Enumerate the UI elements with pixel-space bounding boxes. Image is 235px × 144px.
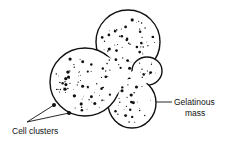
cell-cluster-dot (128, 43, 130, 45)
cell-cluster-dot (137, 102, 138, 103)
cell-cluster-dot (150, 100, 151, 101)
cell-cluster-dot (147, 70, 148, 71)
cell-cluster-dot (114, 30, 116, 32)
cell-cluster-dot (77, 84, 78, 85)
cell-cluster-dot (114, 45, 115, 46)
cell-cluster-dot (109, 30, 110, 31)
cell-cluster-dot (63, 87, 64, 88)
cell-cluster-dot (82, 99, 83, 100)
cell-cluster-dot (108, 47, 111, 50)
cell-cluster-dot (133, 92, 135, 94)
cell-cluster-dot (139, 31, 142, 34)
cell-cluster-dot (81, 106, 83, 108)
cell-cluster-dot (151, 64, 152, 65)
cell-cluster-dot (145, 73, 146, 74)
cell-cluster-dot (90, 63, 92, 65)
cell-cluster-dot (144, 115, 145, 116)
cell-cluster-dot (102, 87, 104, 89)
cell-cluster-dot (128, 121, 130, 123)
cell-cluster-dot (91, 71, 92, 72)
cell-cluster-dot (154, 42, 155, 43)
cell-cluster-dot (141, 86, 142, 87)
cell-cluster-dot (136, 46, 139, 49)
cell-cluster-dot (56, 89, 57, 90)
gelatinous-mass-label-line2: mass (185, 108, 205, 118)
cell-cluster-marker (52, 103, 56, 107)
cell-cluster-dot (61, 82, 64, 85)
cell-cluster-dot (80, 59, 81, 60)
cell-cluster-dot (126, 38, 129, 41)
cell-cluster-dot (66, 70, 69, 73)
cell-cluster-dot (96, 83, 97, 84)
cell-cluster-dot (120, 89, 123, 92)
cell-cluster-dot (81, 60, 84, 63)
cell-cluster-dot (57, 89, 58, 90)
cell-cluster-dot (64, 77, 67, 80)
cell-cluster-dot (116, 29, 117, 30)
cell-cluster-dot (140, 72, 141, 73)
cell-cluster-dot (127, 84, 128, 85)
cell-cluster-dot (141, 69, 142, 70)
cell-cluster-dot (124, 114, 127, 117)
cell-cluster-dot (75, 107, 76, 108)
cell-cluster-dot (109, 94, 111, 96)
cell-cluster-dot (80, 75, 81, 76)
cell-cluster-dot (117, 114, 118, 115)
cell-cluster-dot (149, 71, 152, 74)
cell-cluster-dot (99, 107, 100, 108)
cell-cluster-dot (119, 101, 120, 102)
cell-cluster-dot (81, 85, 84, 88)
cell-cluster-dot (141, 22, 143, 24)
cell-cluster-dot (126, 59, 129, 62)
cell-cluster-dot (136, 22, 137, 23)
cell-cluster-dot (118, 105, 119, 106)
cell-cluster-dot (103, 100, 104, 101)
colony-diagram: Cell clusters Gelatinous mass (0, 0, 235, 144)
cell-cluster-dot (101, 100, 103, 102)
cell-cluster-dot (119, 36, 120, 37)
cell-cluster-dot (69, 78, 70, 79)
cell-cluster-dot (146, 42, 147, 43)
cell-cluster-dot (104, 49, 105, 50)
cell-clusters-label: Cell clusters (12, 126, 58, 136)
cell-cluster-dot (73, 94, 76, 97)
cell-cluster-dot (101, 36, 104, 39)
cell-cluster-dot (143, 73, 145, 75)
cell-clusters-pointer-2 (27, 113, 69, 122)
cell-cluster-dot (142, 76, 143, 77)
cell-cluster-dot (87, 71, 89, 73)
cell-cluster-dot (119, 67, 121, 69)
cell-cluster-dot (78, 76, 79, 77)
cell-cluster-dot (121, 86, 123, 88)
cell-cluster-dot (87, 109, 88, 110)
cell-cluster-dot (152, 36, 154, 38)
cell-cluster-marker (67, 111, 71, 115)
cell-cluster-dot (73, 64, 74, 65)
cell-cluster-dot (73, 66, 74, 67)
cell-cluster-dot (108, 34, 111, 37)
cell-cluster-dot (80, 102, 83, 105)
cell-cluster-dot (117, 94, 118, 95)
cell-cluster-dot (64, 81, 65, 82)
cell-cluster-dot (130, 93, 133, 96)
cell-cluster-dot (131, 18, 134, 21)
cell-cluster-dot (138, 21, 139, 22)
cell-cluster-dot (105, 70, 106, 71)
cell-cluster-dot (131, 62, 132, 63)
cell-cluster-dot (81, 109, 84, 112)
cell-cluster-dot (131, 116, 133, 118)
cell-cluster-dot (93, 102, 96, 105)
cell-cluster-dot (139, 28, 140, 29)
cell-cluster-dot (142, 53, 143, 54)
cell-cluster-dot (58, 75, 59, 76)
cell-cluster-dot (67, 88, 69, 90)
cell-cluster-dot (142, 53, 143, 54)
cell-cluster-dot (109, 59, 111, 61)
cell-cluster-dot (91, 102, 92, 103)
cell-cluster-dot (83, 96, 84, 97)
cell-cluster-dot (78, 72, 79, 73)
cell-cluster-dot (121, 35, 124, 38)
cell-cluster-dot (65, 92, 66, 93)
cell-cluster-dot (129, 44, 131, 46)
cell-cluster-dot (56, 73, 57, 74)
